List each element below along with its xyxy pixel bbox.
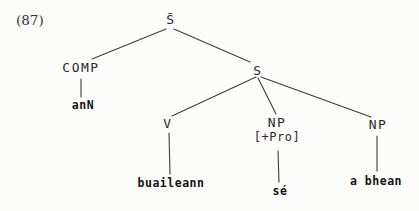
terminal-buaileann: buaileann xyxy=(138,177,205,189)
np-pro-feature: [+Pro] xyxy=(254,131,300,144)
edge-s-npobj xyxy=(261,77,371,117)
edge-s-v xyxy=(172,77,256,116)
edge-sbar-comp xyxy=(92,29,166,59)
np-pro-label: NP xyxy=(268,115,287,130)
terminal-se: sé xyxy=(273,185,288,197)
node-s: S xyxy=(253,64,262,78)
node-v: V xyxy=(163,117,172,131)
terminal-a-bhean: a bhean xyxy=(350,175,402,187)
edge-sbar-s xyxy=(174,29,250,62)
figure-number: (87) xyxy=(16,12,44,28)
node-np-obj: NP xyxy=(369,118,388,132)
terminal-ann: anN xyxy=(72,99,94,111)
node-s-bar: S̄ xyxy=(166,13,175,27)
edge-v-buaileann xyxy=(169,133,170,174)
node-comp: COMP xyxy=(62,61,99,75)
scanned-figure-page: (87) S̄ COMP S anN V NP [+Pro] NP buaile… xyxy=(0,0,419,211)
node-np-pro: NP [+Pro] xyxy=(254,116,300,143)
edge-nppro-se xyxy=(278,151,279,182)
edge-s-nppro xyxy=(258,78,276,114)
